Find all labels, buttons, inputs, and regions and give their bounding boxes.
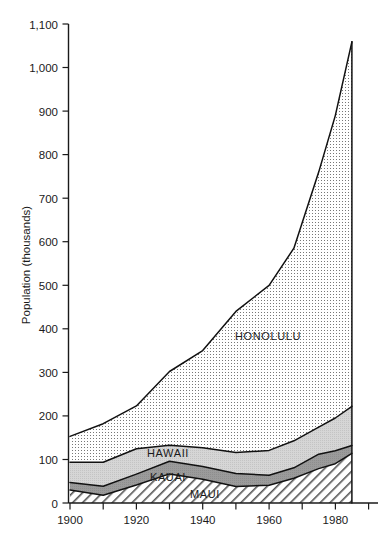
y-tick-label: 100: [39, 454, 58, 466]
x-tick-label: 1980: [323, 514, 349, 526]
y-tick-label: 700: [39, 193, 58, 205]
y-tick-label: 400: [39, 323, 58, 335]
y-tick-label: 1,100: [29, 19, 58, 31]
y-axis-title: Population (thousands): [20, 206, 32, 324]
x-tick-label: 1900: [57, 514, 83, 526]
population-stacked-area-chart: 1,100 1,000 900 800 700 600 500 400 300 …: [0, 0, 388, 537]
x-tick-label: 1920: [124, 514, 150, 526]
chart-canvas: 1,100 1,000 900 800 700 600 500 400 300 …: [0, 0, 388, 537]
series-label-hawaii: HAWAII: [147, 447, 189, 459]
y-tick-label: 500: [39, 280, 58, 292]
y-tick-label: 800: [39, 149, 58, 161]
y-tick-label: 200: [39, 410, 58, 422]
x-tick-label: 1940: [190, 514, 216, 526]
y-tick-label: 600: [39, 236, 58, 248]
series-label-kauai: KAUAI: [150, 471, 186, 483]
y-tick-label: 0: [52, 498, 58, 510]
y-tick-label: 1,000: [29, 62, 58, 74]
y-tick-label: 300: [39, 367, 58, 379]
y-tick-label: 900: [39, 106, 58, 118]
x-tick-label: 1960: [256, 514, 282, 526]
series-label-maui: MAUI: [190, 488, 220, 500]
series-label-honolulu: HONOLULU: [235, 330, 301, 342]
